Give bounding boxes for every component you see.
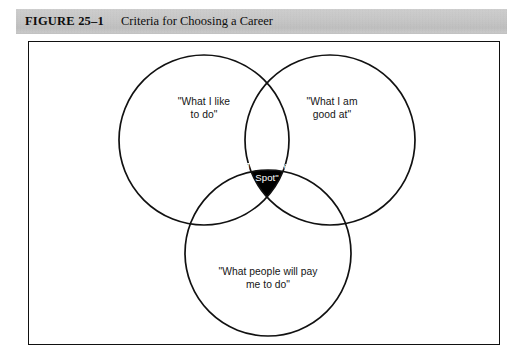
label-the-sweet-spot: "The Sweet Spot" (217, 160, 317, 183)
label-what-i-am-good-at: "What I am good at" (262, 96, 402, 121)
figure-title: Criteria for Choosing a Career (121, 14, 273, 29)
figure-number-label: FIGURE 25–1 (25, 14, 104, 29)
label-what-i-like-to-do: "What I like to do" (134, 96, 274, 121)
figure-header-band: FIGURE 25–1 Criteria for Choosing a Care… (16, 9, 507, 33)
label-what-people-will-pay-me-to-do: "What people will pay me to do" (188, 266, 348, 291)
figure-frame-border (28, 41, 500, 345)
